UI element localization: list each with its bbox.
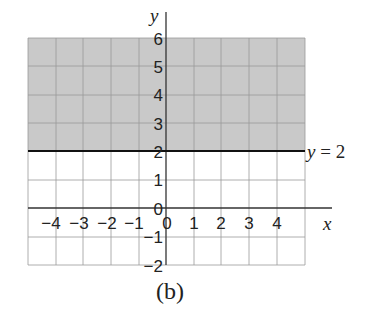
x-tick-labels: −4 −3 −2 −1 0 1 2 3 4 xyxy=(41,214,281,233)
svg-text:−1: −1 xyxy=(144,228,163,247)
svg-text:0: 0 xyxy=(162,214,171,233)
line-label: y = 2 xyxy=(305,141,345,162)
svg-text:1: 1 xyxy=(154,171,163,190)
figure-caption: (b) xyxy=(156,278,184,304)
svg-text:−4: −4 xyxy=(41,214,60,233)
svg-text:−2: −2 xyxy=(97,214,116,233)
x-axis-label: x xyxy=(322,213,332,234)
svg-text:−3: −3 xyxy=(69,214,88,233)
y-axis-label: y xyxy=(148,5,159,26)
svg-text:−1: −1 xyxy=(124,214,143,233)
svg-text:5: 5 xyxy=(154,58,163,77)
svg-text:4: 4 xyxy=(272,214,281,233)
svg-text:3: 3 xyxy=(244,214,253,233)
svg-text:6: 6 xyxy=(154,30,163,49)
svg-text:3: 3 xyxy=(154,115,163,134)
inequality-graph: y x y = 2 6 5 4 3 2 1 0 −1 −2 −4 −3 −2 −… xyxy=(0,0,373,325)
svg-text:2: 2 xyxy=(216,214,225,233)
svg-text:1: 1 xyxy=(189,214,198,233)
svg-text:4: 4 xyxy=(154,86,163,105)
svg-text:−2: −2 xyxy=(144,257,163,276)
svg-text:2: 2 xyxy=(154,143,163,162)
